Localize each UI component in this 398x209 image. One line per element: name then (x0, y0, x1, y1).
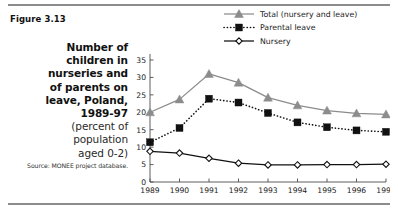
figure-subtitle-line: aged 0-2) (10, 147, 128, 160)
y-axis-tick-label: 15 (136, 126, 146, 135)
figure-title-line: 1989-97 (10, 107, 128, 120)
data-point-marker (265, 162, 271, 168)
data-point-marker (176, 124, 183, 131)
x-axis-tick-label: 1989 (140, 186, 159, 195)
top-divider-rule (8, 4, 390, 6)
y-axis: 05101520253035 (136, 54, 153, 187)
data-point-marker (324, 124, 331, 131)
y-axis-tick-label: 25 (136, 91, 146, 100)
x-axis-tick-label: 1994 (288, 186, 307, 195)
data-point-marker (294, 119, 301, 126)
y-axis-tick-label: 5 (141, 160, 146, 169)
legend-label: Total (nursery and leave) (259, 10, 357, 19)
data-point-marker (353, 127, 360, 134)
data-point-marker (236, 24, 243, 31)
data-point-marker (235, 99, 242, 106)
series-line (150, 99, 386, 143)
y-axis-tick-label: 10 (136, 143, 146, 152)
y-axis-tick-label: 30 (136, 73, 146, 82)
legend-label: Nursery (260, 37, 291, 46)
x-axis-tick-label: 1991 (199, 186, 218, 195)
data-point-marker (353, 161, 359, 167)
figure-subtitle-line: (percent of (10, 120, 128, 133)
legend-item[interactable]: Parental leave (224, 23, 316, 32)
data-point-marker (294, 162, 300, 168)
figure-title-line: nurseries and (10, 67, 128, 80)
data-point-marker (264, 93, 273, 101)
y-axis-tick-label: 35 (136, 56, 146, 65)
data-point-marker (206, 95, 213, 102)
data-point-marker (205, 70, 214, 78)
x-axis-tick-label: 1997 (376, 186, 390, 195)
chart-legend: Total (nursery and leave)Parental leaveN… (224, 10, 357, 46)
x-axis-tick-label: 1992 (229, 186, 248, 195)
legend-item[interactable]: Total (nursery and leave) (224, 10, 357, 19)
data-point-marker (236, 38, 242, 44)
figure-title: Number of children in nurseries and of p… (10, 41, 128, 160)
data-point-marker (235, 160, 241, 166)
x-axis-tick-label: 1993 (258, 186, 277, 195)
data-series-group (146, 70, 390, 169)
line-chart-svg: 05101520253035 1989199019911992199319941… (128, 8, 390, 204)
data-point-marker (147, 139, 154, 146)
figure-number-label: Figure 3.13 (10, 14, 128, 24)
figure-title-line: children in (10, 54, 128, 67)
figure-subtitle: (percent of population aged 0-2) (10, 120, 128, 160)
x-axis-tick-label: 1995 (317, 186, 336, 195)
legend-item[interactable]: Nursery (224, 37, 291, 46)
data-point-marker (383, 128, 390, 135)
x-axis-tick-label: 1996 (347, 186, 366, 195)
data-point-marker (383, 161, 389, 167)
figure-title-line: Number of (10, 41, 128, 54)
data-point-marker (147, 148, 153, 154)
x-axis-tick-label: 1990 (170, 186, 189, 195)
data-point-marker (324, 161, 330, 167)
data-point-marker (206, 155, 212, 161)
x-axis: 198919901991199219931994199519961997 (140, 179, 390, 196)
data-series (147, 148, 389, 168)
figure-title-line: of parents on (10, 81, 128, 94)
figure-container: Figure 3.13 Number of children in nurser… (0, 0, 398, 209)
chart-plot-area: 05101520253035 1989199019911992199319941… (128, 8, 390, 204)
figure-caption-block: Figure 3.13 Number of children in nurser… (10, 14, 128, 170)
figure-title-line: leave, Poland, (10, 94, 128, 107)
y-axis-tick-label: 20 (136, 108, 146, 117)
figure-source-note: Source: MONEE project database. (10, 162, 128, 170)
data-point-marker (265, 109, 272, 116)
legend-label: Parental leave (260, 23, 316, 32)
figure-subtitle-line: population (10, 133, 128, 146)
data-point-marker (176, 150, 182, 156)
